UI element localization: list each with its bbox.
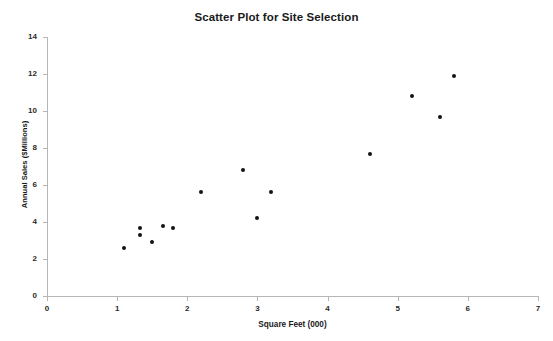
x-tick-mark xyxy=(328,297,329,301)
x-axis-line xyxy=(47,296,539,297)
data-point xyxy=(368,152,372,156)
data-point xyxy=(161,224,165,228)
x-axis-title: Square Feet (000) xyxy=(47,320,538,329)
x-tick-mark xyxy=(538,297,539,301)
data-point xyxy=(438,115,442,119)
y-tick-label: 10 xyxy=(13,106,37,115)
y-tick-mark xyxy=(43,111,47,112)
x-tick-mark xyxy=(468,297,469,301)
x-tick-mark xyxy=(187,297,188,301)
data-point xyxy=(255,216,259,220)
x-tick-label: 5 xyxy=(386,304,410,313)
data-point xyxy=(122,246,126,250)
data-point xyxy=(199,190,203,194)
data-point xyxy=(138,233,142,237)
y-axis-title: Annual Sales ($Millions) xyxy=(20,95,29,235)
x-tick-mark xyxy=(257,297,258,301)
y-tick-mark xyxy=(43,259,47,260)
x-tick-mark xyxy=(47,297,48,301)
y-tick-label: 4 xyxy=(13,217,37,226)
y-tick-mark xyxy=(43,148,47,149)
y-tick-label: 12 xyxy=(13,69,37,78)
y-tick-mark xyxy=(43,37,47,38)
x-tick-mark xyxy=(117,297,118,301)
data-point xyxy=(138,226,142,230)
x-tick-label: 0 xyxy=(35,304,59,313)
chart-title: Scatter Plot for Site Selection xyxy=(0,11,553,23)
x-tick-label: 4 xyxy=(316,304,340,313)
x-tick-label: 6 xyxy=(456,304,480,313)
y-tick-label: 2 xyxy=(13,254,37,263)
x-tick-label: 7 xyxy=(526,304,550,313)
y-tick-label: 14 xyxy=(13,32,37,41)
data-point xyxy=(452,74,456,78)
data-point xyxy=(241,168,245,172)
x-tick-label: 3 xyxy=(245,304,269,313)
x-tick-mark xyxy=(398,297,399,301)
data-point xyxy=(171,226,175,230)
y-tick-label: 6 xyxy=(13,180,37,189)
scatter-chart: Scatter Plot for Site Selection Annual S… xyxy=(0,0,553,341)
x-tick-label: 1 xyxy=(105,304,129,313)
y-tick-label: 8 xyxy=(13,143,37,152)
y-tick-mark xyxy=(43,185,47,186)
y-tick-label: 0 xyxy=(13,291,37,300)
y-axis-line xyxy=(47,37,48,297)
x-tick-label: 2 xyxy=(175,304,199,313)
data-point xyxy=(410,94,414,98)
data-point xyxy=(269,190,273,194)
y-tick-mark xyxy=(43,74,47,75)
data-point xyxy=(150,240,154,244)
y-tick-mark xyxy=(43,222,47,223)
